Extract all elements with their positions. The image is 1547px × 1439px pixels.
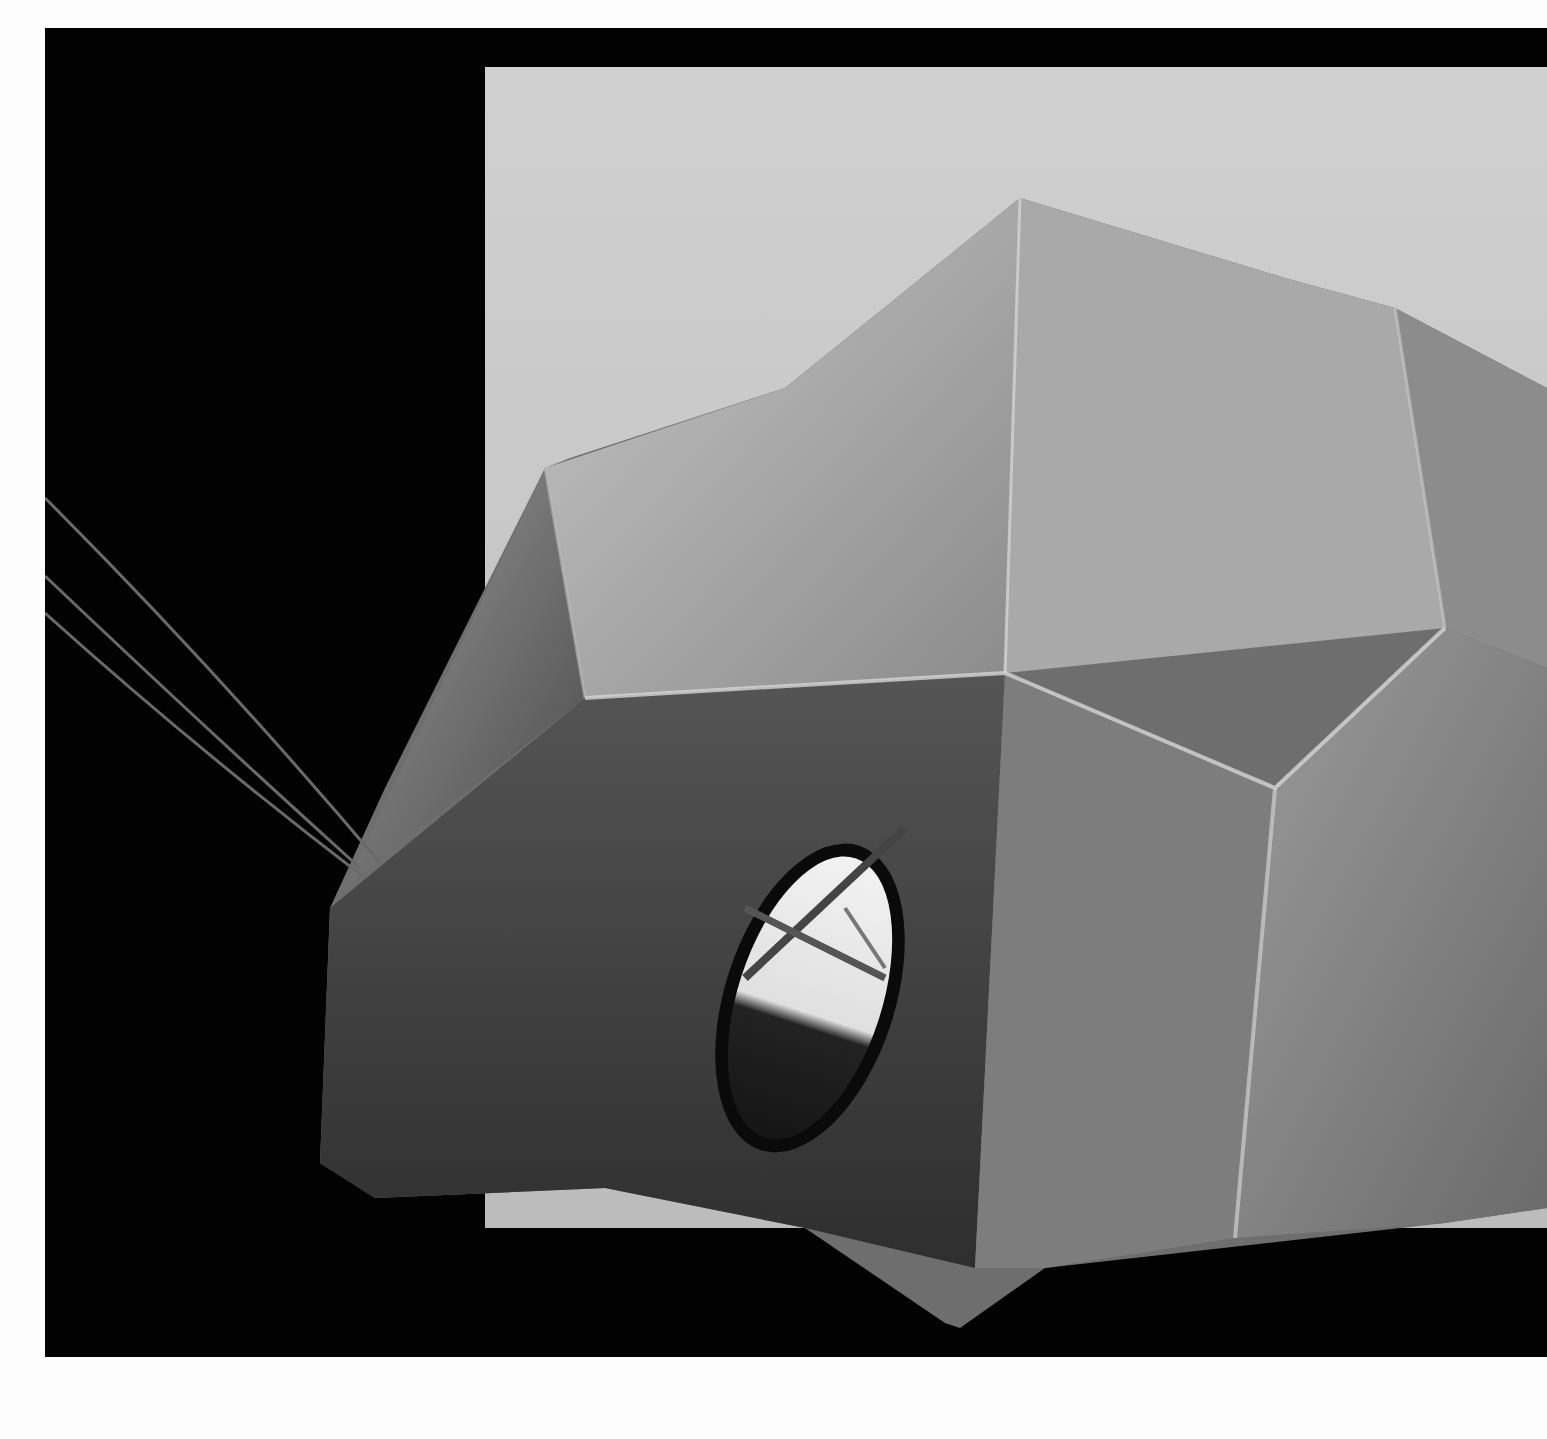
photograph bbox=[45, 28, 1547, 1357]
wires bbox=[45, 498, 380, 878]
